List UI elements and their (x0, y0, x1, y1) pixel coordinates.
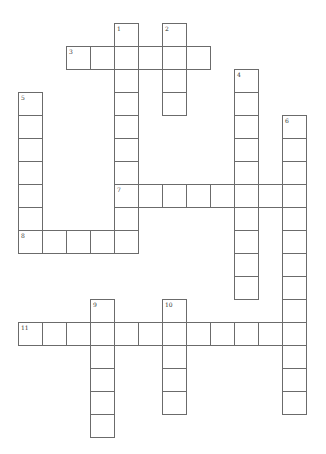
crossword-cell[interactable] (162, 345, 187, 369)
crossword-cell[interactable]: 8 (18, 230, 43, 254)
crossword-cell[interactable] (162, 92, 187, 116)
crossword-cell[interactable] (282, 345, 307, 369)
crossword-cell[interactable]: 11 (18, 322, 43, 346)
crossword-grid: 1723458691011 (0, 0, 326, 454)
crossword-cell[interactable] (66, 322, 91, 346)
crossword-cell[interactable]: 2 (162, 23, 187, 47)
crossword-cell[interactable]: 3 (66, 46, 91, 70)
crossword-cell[interactable] (234, 161, 259, 185)
crossword-cell[interactable]: 10 (162, 299, 187, 323)
clue-number: 3 (69, 48, 73, 55)
crossword-cell[interactable] (186, 322, 211, 346)
crossword-cell[interactable] (18, 138, 43, 162)
crossword-cell[interactable] (114, 115, 139, 139)
clue-number: 7 (117, 186, 121, 193)
crossword-cell[interactable] (90, 368, 115, 392)
crossword-cell[interactable] (282, 138, 307, 162)
clue-number: 4 (237, 71, 241, 78)
crossword-cell[interactable] (114, 69, 139, 93)
crossword-cell[interactable] (282, 299, 307, 323)
crossword-cell[interactable] (282, 230, 307, 254)
crossword-cell[interactable] (42, 322, 67, 346)
clue-number: 8 (21, 232, 25, 239)
clue-number: 9 (93, 301, 97, 308)
crossword-cell[interactable] (114, 230, 139, 254)
crossword-cell[interactable] (114, 322, 139, 346)
crossword-cell[interactable] (282, 253, 307, 277)
crossword-cell[interactable] (114, 207, 139, 231)
crossword-cell[interactable] (258, 184, 283, 208)
crossword-cell[interactable] (162, 46, 187, 70)
crossword-cell[interactable] (282, 368, 307, 392)
crossword-cell[interactable] (210, 322, 235, 346)
crossword-cell[interactable] (258, 322, 283, 346)
crossword-cell[interactable] (234, 138, 259, 162)
crossword-cell[interactable] (114, 46, 139, 70)
crossword-cell[interactable] (90, 322, 115, 346)
crossword-cell[interactable] (234, 92, 259, 116)
crossword-cell[interactable] (114, 92, 139, 116)
crossword-cell[interactable] (42, 230, 67, 254)
crossword-cell[interactable]: 7 (114, 184, 139, 208)
crossword-cell[interactable] (282, 322, 307, 346)
crossword-cell[interactable] (234, 184, 259, 208)
crossword-cell[interactable]: 6 (282, 115, 307, 139)
crossword-cell[interactable] (90, 391, 115, 415)
crossword-cell[interactable] (90, 230, 115, 254)
clue-number: 10 (165, 301, 173, 308)
crossword-cell[interactable] (234, 115, 259, 139)
crossword-cell[interactable] (90, 414, 115, 438)
crossword-cell[interactable] (282, 207, 307, 231)
crossword-cell[interactable] (138, 322, 163, 346)
crossword-cell[interactable] (234, 253, 259, 277)
crossword-cell[interactable] (234, 322, 259, 346)
crossword-cell[interactable] (162, 368, 187, 392)
crossword-cell[interactable] (90, 46, 115, 70)
crossword-cell[interactable] (282, 391, 307, 415)
crossword-cell[interactable] (18, 115, 43, 139)
crossword-cell[interactable] (18, 161, 43, 185)
crossword-cell[interactable]: 9 (90, 299, 115, 323)
crossword-cell[interactable] (138, 46, 163, 70)
crossword-cell[interactable] (186, 46, 211, 70)
crossword-cell[interactable] (234, 276, 259, 300)
clue-number: 2 (165, 25, 169, 32)
crossword-cell[interactable] (282, 161, 307, 185)
crossword-cell[interactable] (18, 184, 43, 208)
crossword-cell[interactable]: 4 (234, 69, 259, 93)
crossword-cell[interactable] (162, 391, 187, 415)
clue-number: 5 (21, 94, 25, 101)
crossword-cell[interactable] (138, 184, 163, 208)
crossword-cell[interactable] (114, 138, 139, 162)
clue-number: 11 (21, 324, 29, 331)
crossword-cell[interactable] (90, 345, 115, 369)
crossword-cell[interactable] (210, 184, 235, 208)
crossword-cell[interactable] (234, 207, 259, 231)
crossword-cell[interactable]: 5 (18, 92, 43, 116)
clue-number: 1 (117, 25, 121, 32)
crossword-cell[interactable] (162, 184, 187, 208)
crossword-cell[interactable] (282, 276, 307, 300)
crossword-cell[interactable] (18, 207, 43, 231)
crossword-cell[interactable] (114, 161, 139, 185)
crossword-cell[interactable] (162, 69, 187, 93)
crossword-cell[interactable] (162, 322, 187, 346)
crossword-cell[interactable]: 1 (114, 23, 139, 47)
crossword-cell[interactable] (66, 230, 91, 254)
clue-number: 6 (285, 117, 289, 124)
crossword-cell[interactable] (234, 230, 259, 254)
crossword-cell[interactable] (186, 184, 211, 208)
crossword-cell[interactable] (282, 184, 307, 208)
